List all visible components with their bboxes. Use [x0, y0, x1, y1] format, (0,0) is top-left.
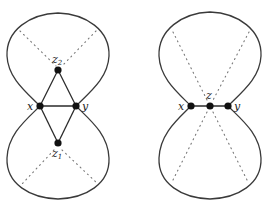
- label-z1: z1: [51, 147, 62, 161]
- right-lower-dotted-right: [213, 112, 248, 182]
- node-x: [187, 102, 194, 109]
- right-upper-dotted-left: [173, 32, 208, 102]
- right-lower-lobe: [159, 106, 261, 199]
- node-z1: [54, 139, 61, 146]
- label-x: x: [178, 100, 185, 113]
- edge-y-z1: [58, 106, 76, 143]
- edge-y-z2: [58, 70, 76, 106]
- label-y: y: [233, 100, 241, 113]
- node-y: [72, 102, 79, 109]
- left-figure: x y z2 z1: [7, 13, 109, 199]
- label-x: x: [27, 100, 34, 113]
- label-z2: z2: [51, 53, 63, 67]
- node-x: [36, 102, 43, 109]
- node-z: [206, 102, 213, 109]
- node-z2: [54, 66, 61, 73]
- left-upper-dotted-left: [20, 31, 56, 66]
- label-y: y: [81, 100, 89, 113]
- left-lower-dotted-left: [22, 150, 54, 184]
- edge-x-z1: [40, 106, 58, 143]
- right-figure: x y z: [159, 12, 261, 199]
- label-z: z: [205, 89, 212, 102]
- node-y: [224, 102, 231, 109]
- left-upper-dotted-right: [62, 31, 96, 66]
- diagram-canvas: x y z2 z1 x y z: [0, 0, 267, 206]
- left-lower-dotted-right: [62, 150, 98, 184]
- right-lower-dotted-left: [172, 112, 207, 182]
- edge-x-z2: [40, 70, 58, 106]
